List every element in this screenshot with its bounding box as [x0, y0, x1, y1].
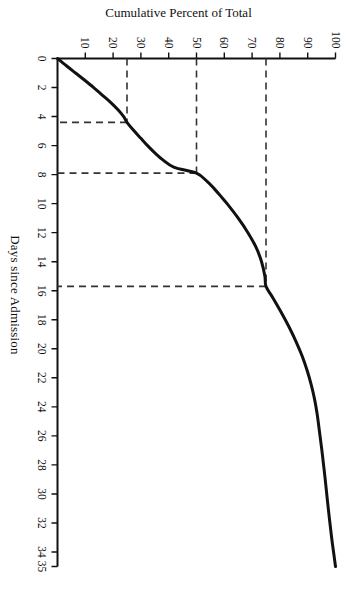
- cumulative-distribution-plot: 024681012141618202224262830323435 102030…: [0, 0, 357, 589]
- y-tick-label: 80: [273, 37, 285, 49]
- x-tick-label: 0: [35, 55, 47, 61]
- y-tick-label: 30: [134, 37, 146, 49]
- y-tick-label: 40: [162, 37, 174, 49]
- y-axis-title: Cumulative Percent of Total: [105, 4, 252, 20]
- x-tick-label: 2: [35, 84, 47, 90]
- y-axis-title-holder: Cumulative Percent of Total: [0, 2, 357, 22]
- x-tick-label: 12: [35, 226, 47, 238]
- x-tick-label: 32: [35, 517, 47, 529]
- x-tick-label: 28: [35, 459, 47, 471]
- figure: 024681012141618202224262830323435 102030…: [0, 0, 357, 589]
- x-tick-label: 30: [35, 488, 47, 500]
- y-tick-label: 70: [246, 37, 258, 49]
- x-tick-label: 24: [35, 401, 47, 413]
- x-tick-label: 14: [35, 255, 47, 267]
- x-tick-label: 35: [35, 560, 47, 572]
- x-tick-label: 22: [35, 372, 47, 384]
- x-tick-label: 34: [35, 546, 47, 558]
- y-tick-label: 100: [329, 31, 341, 49]
- x-tick-label: 10: [35, 197, 47, 209]
- x-tick-label: 8: [35, 171, 47, 177]
- x-axis-title: Days since Admission: [6, 0, 22, 589]
- plot-background: [0, 0, 357, 589]
- y-tick-label: 50: [190, 37, 202, 49]
- x-tick-label: 20: [35, 343, 47, 355]
- x-tick-label: 16: [35, 284, 47, 296]
- x-tick-label: 18: [35, 314, 47, 326]
- x-tick-label: 6: [35, 142, 47, 148]
- chart-page: 024681012141618202224262830323435 102030…: [0, 0, 357, 589]
- y-tick-label: 20: [107, 37, 119, 49]
- y-tick-label: 90: [301, 37, 313, 49]
- rotated-figure-wrapper: 024681012141618202224262830323435 102030…: [0, 0, 357, 589]
- y-tick-label: 60: [218, 37, 230, 49]
- y-tick-label: 10: [79, 37, 91, 49]
- x-tick-label: 4: [35, 113, 47, 119]
- x-tick-label: 26: [35, 430, 47, 442]
